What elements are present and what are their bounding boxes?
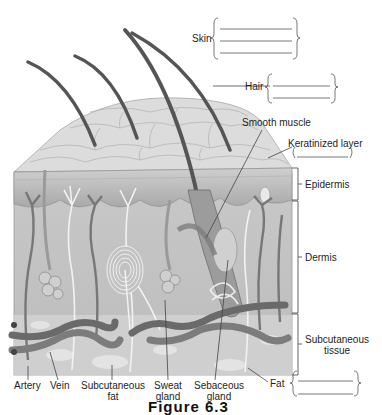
label-hair: Hair bbox=[245, 81, 263, 92]
label-dermis: Dermis bbox=[305, 252, 337, 263]
hair-brace-left bbox=[265, 74, 272, 103]
label-keratinized-layer: Keratinized layer bbox=[288, 138, 362, 149]
dermis-bracket bbox=[292, 201, 298, 313]
skin-brace-right bbox=[293, 18, 300, 59]
hair-brace-right bbox=[331, 74, 338, 103]
figure-caption: Figure 6.3 bbox=[148, 398, 229, 415]
layer-brackets bbox=[292, 168, 302, 375]
label-artery: Artery bbox=[14, 380, 41, 391]
label-subcutaneous-tissue-line2: tissue bbox=[304, 345, 370, 356]
label-subcutaneous-tissue-line1: Subcutaneous bbox=[304, 334, 370, 345]
label-skin: Skin bbox=[192, 33, 211, 44]
skin-brace-left bbox=[211, 18, 218, 59]
label-epidermis: Epidermis bbox=[305, 179, 349, 190]
label-subcutaneous-fat-line1: Subcutaneous bbox=[80, 380, 146, 391]
label-subcutaneous-fat: Subcutaneous fat bbox=[80, 380, 146, 402]
label-vein: Vein bbox=[50, 380, 69, 391]
fat-brace-right bbox=[354, 371, 361, 396]
label-subcutaneous-tissue: Subcutaneous tissue bbox=[304, 334, 370, 356]
skin-surface bbox=[14, 98, 292, 172]
label-sebaceous-gland-line1: Sebaceous bbox=[193, 380, 245, 391]
label-sweat-gland-line1: Sweat bbox=[150, 380, 186, 391]
subcutaneous-bracket bbox=[292, 314, 298, 375]
epidermis-bracket bbox=[292, 168, 298, 200]
label-smooth-muscle: Smooth muscle bbox=[242, 117, 311, 128]
label-subcutaneous-fat-line2: fat bbox=[80, 391, 146, 402]
label-fat: Fat bbox=[270, 378, 284, 389]
